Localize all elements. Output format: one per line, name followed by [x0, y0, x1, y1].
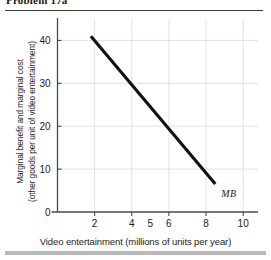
y-axis-title-line2: (other goods per unit of video entertain…	[26, 22, 38, 222]
y-axis-title-line1: Marginal benefit and marginal cost	[15, 59, 25, 184]
bottom-grey-band	[5, 251, 266, 255]
tick-labels: 1020304002468105	[39, 35, 249, 229]
y-tick-label: 20	[39, 121, 51, 132]
series-line-mb	[91, 36, 215, 184]
y-tick-label: 10	[39, 164, 51, 175]
tick-marks	[58, 40, 244, 216]
x-axis-title: Video entertainment (millions of units p…	[0, 236, 271, 247]
chart-canvas: 1020304002468105 MB	[0, 14, 271, 250]
origin-label: 0	[45, 207, 51, 218]
chart-svg: 1020304002468105 MB	[0, 14, 271, 250]
data-series	[91, 36, 215, 184]
problem-caption: Problem 17a	[6, 0, 68, 6]
x-tick-label: 10	[238, 218, 250, 229]
x-tick-label-extra: 5	[148, 218, 154, 229]
y-axis-title: Marginal benefit and marginal cost (othe…	[15, 22, 38, 222]
top-divider-rule	[5, 10, 263, 11]
x-tick-label: 4	[129, 218, 135, 229]
series-labels: MB	[220, 188, 236, 199]
y-tick-label: 40	[39, 35, 51, 46]
axis-lines	[52, 18, 259, 212]
series-label-mb: MB	[220, 188, 236, 199]
x-tick-label: 6	[166, 218, 172, 229]
y-tick-label: 30	[39, 78, 51, 89]
x-tick-label: 2	[92, 218, 98, 229]
figure-container: Problem 17a 1020304002468105 MB Marginal…	[0, 0, 271, 260]
x-tick-label: 8	[203, 218, 209, 229]
